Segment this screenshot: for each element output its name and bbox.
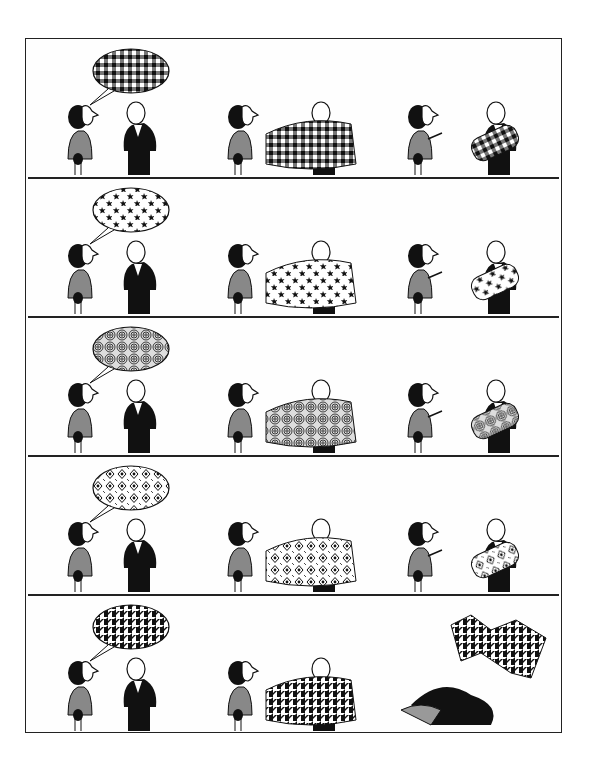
man-figure xyxy=(124,519,157,592)
woman-figure xyxy=(228,244,258,314)
speech-bubble xyxy=(93,466,169,510)
man-figure xyxy=(124,102,157,175)
woman-figure xyxy=(68,105,98,175)
scene-decline xyxy=(401,39,541,178)
scene-request xyxy=(56,595,196,734)
comic-row-houndstooth xyxy=(26,595,561,734)
scene-request xyxy=(56,39,196,178)
comic-row-gingham xyxy=(26,39,561,178)
fabric-unrolled xyxy=(266,677,356,725)
speech-bubble xyxy=(93,605,169,649)
speech-bubble xyxy=(93,327,169,371)
man-figure xyxy=(124,241,157,314)
comic-row-stars xyxy=(26,178,561,317)
comic-frame xyxy=(25,38,562,733)
woman-figure xyxy=(68,661,98,731)
scene-display xyxy=(221,317,381,456)
fabric-unrolled xyxy=(266,538,356,586)
comic-row-diamonds xyxy=(26,456,561,595)
scene-attack xyxy=(391,595,561,734)
woman-figure xyxy=(68,244,98,314)
scene-display xyxy=(221,595,381,734)
speech-bubble xyxy=(93,188,169,232)
scene-display xyxy=(221,456,381,595)
scene-request xyxy=(56,456,196,595)
fabric-unrolled xyxy=(266,121,356,169)
man-figure xyxy=(124,658,157,731)
woman-figure xyxy=(408,244,442,314)
woman-figure xyxy=(408,383,442,453)
fabric-unrolled xyxy=(266,260,356,308)
scene-decline xyxy=(401,317,541,456)
fabric-unrolled xyxy=(266,399,356,447)
scene-display xyxy=(221,39,381,178)
woman-figure xyxy=(408,522,442,592)
woman-figure xyxy=(68,522,98,592)
man-figure xyxy=(124,380,157,453)
woman-figure xyxy=(228,661,258,731)
woman-figure xyxy=(408,105,442,175)
woman-figure xyxy=(228,522,258,592)
scene-display xyxy=(221,178,381,317)
woman-figure xyxy=(228,105,258,175)
speech-bubble xyxy=(93,49,169,93)
scene-decline xyxy=(401,178,541,317)
woman-figure xyxy=(228,383,258,453)
comic-row-swirls xyxy=(26,317,561,456)
scene-request xyxy=(56,178,196,317)
scene-request xyxy=(56,317,196,456)
scene-decline xyxy=(401,456,541,595)
woman-figure xyxy=(68,383,98,453)
flying-fabric xyxy=(451,615,546,678)
